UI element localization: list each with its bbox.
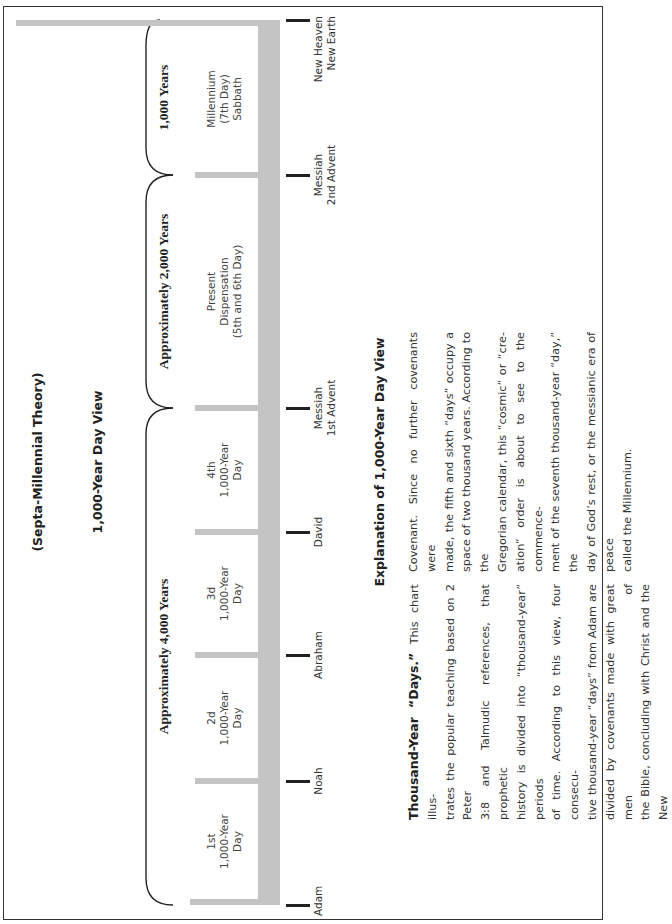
timeline-bar <box>258 20 280 905</box>
tick-messiah-2 <box>286 174 310 177</box>
divider-adam <box>190 899 258 905</box>
event-new-heaven: New HeavenNew Earth <box>312 16 338 88</box>
segment-4: 4th1,000-YearDay <box>205 411 244 529</box>
segment-2: 2d1,000-YearDay <box>205 658 244 778</box>
era-label-2000: Approximately 2,000 Years <box>156 175 172 408</box>
event-messiah-1: Messiah1st Advent <box>312 372 338 444</box>
tick-new-heaven <box>286 19 310 22</box>
tick-noah <box>286 780 310 783</box>
segment-present: PresentDispensation(5th and 6th Day) <box>205 178 244 405</box>
segment-millennium: Millennium(7th Day)Sabbath <box>205 26 244 172</box>
era-label-1000: 1,000 Years <box>156 20 172 175</box>
event-messiah-2: Messiah2nd Advent <box>312 139 338 211</box>
segment-1: 1st1,000-YearDay <box>205 784 244 899</box>
tick-adam <box>286 904 310 907</box>
event-noah: Noah <box>312 751 325 811</box>
segment-3: 3d1,000-YearDay <box>205 535 244 652</box>
tick-messiah-1 <box>286 407 310 410</box>
event-adam: Adam <box>312 876 325 924</box>
explanation-column-1: Thousand-Year “Days.” This chart illus- … <box>405 584 672 820</box>
explanation-title: Explanation of 1,000-Year Day View <box>372 0 387 924</box>
era-label-4000: Approximately 4,000 Years <box>156 408 172 905</box>
explanation-column-2: Covenant. Since no further covenants wer… <box>405 332 636 572</box>
tick-abraham <box>286 654 310 657</box>
tick-david <box>286 531 310 534</box>
event-david: David <box>312 501 325 563</box>
explanation-lead: Thousand-Year “Days.” <box>406 653 421 820</box>
event-abraham: Abraham <box>312 624 325 686</box>
